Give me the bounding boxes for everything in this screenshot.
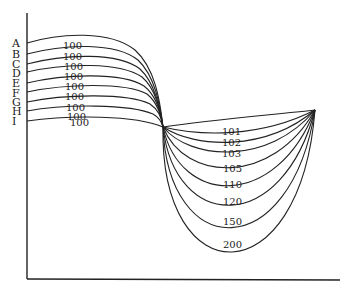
- horizontal-axis: [27, 279, 340, 280]
- lower-label-120: 120: [223, 196, 242, 207]
- curve-family-diagram: A B C D E F G H I 100 100 100 100 100 10…: [0, 0, 349, 294]
- lower-label-110: 110: [223, 179, 242, 190]
- lower-label-200: 200: [223, 239, 242, 250]
- upper-curve-g: [27, 96, 163, 127]
- lower-curve-top: [163, 110, 315, 127]
- upper-curve-h: [27, 106, 163, 127]
- axis-label-i: I: [12, 115, 16, 128]
- lower-label-101: 101: [222, 126, 241, 137]
- upper-label-i: 100: [70, 117, 89, 128]
- lower-label-150: 150: [223, 216, 242, 227]
- lower-label-105: 105: [223, 163, 242, 174]
- lower-label-103: 103: [222, 148, 241, 159]
- upper-label-f: 100: [65, 91, 84, 102]
- upper-curve-i: [27, 117, 163, 127]
- upper-curve-a: [27, 35, 163, 127]
- lower-label-102: 102: [222, 137, 241, 148]
- upper-label-a: 100: [63, 40, 82, 51]
